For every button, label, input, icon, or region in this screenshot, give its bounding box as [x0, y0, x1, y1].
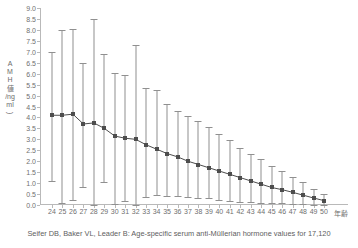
error-bar-cap-lower: [111, 204, 118, 205]
data-point-marker: [312, 196, 316, 200]
error-bar-cap-upper: [164, 104, 171, 105]
x-axis-tick-label: 46: [278, 208, 286, 215]
error-bar-cap-lower: [237, 202, 244, 203]
error-bar-cap-lower: [300, 204, 307, 205]
data-point-marker: [270, 185, 274, 189]
x-axis-tick-label: 30: [111, 208, 119, 215]
error-bar-cap-upper: [205, 127, 212, 128]
data-point-marker: [217, 169, 221, 173]
x-axis-tick-label: 36: [174, 208, 182, 215]
error-bar-cap-lower: [153, 195, 160, 196]
x-axis-tick-label: 37: [184, 208, 192, 215]
error-bar-cap-upper: [289, 177, 296, 178]
error-bar: [104, 54, 105, 182]
x-axis-tick-label: 35: [163, 208, 171, 215]
x-axis-tick-label: 50: [320, 208, 328, 215]
error-bar-cap-lower: [164, 196, 171, 197]
y-axis-title-paren: ): [6, 105, 14, 121]
data-point-marker: [176, 155, 180, 159]
data-point-marker: [280, 188, 284, 192]
data-point-marker: [102, 126, 106, 130]
error-bar: [156, 90, 157, 195]
error-bar: [93, 19, 94, 205]
error-bar-cap-lower: [195, 198, 202, 199]
error-bar-cap-upper: [321, 194, 328, 195]
y-axis-title-char: 値: [2, 85, 18, 93]
x-axis-tick-label: 25: [59, 208, 67, 215]
error-bar: [167, 104, 168, 196]
y-axis-tick-label: 6.0: [26, 70, 36, 77]
error-bar-cap-lower: [321, 205, 328, 206]
error-bar-cap-lower: [216, 200, 223, 201]
error-bar-cap-upper: [195, 121, 202, 122]
error-bar-cap-upper: [111, 73, 118, 74]
error-bar-cap-lower: [101, 182, 108, 183]
y-axis-tick-label: 8.0: [26, 26, 36, 33]
x-axis-tick-label: 27: [79, 208, 87, 215]
error-bar-cap-lower: [310, 205, 317, 206]
y-axis-tick-label: 4.5: [26, 103, 36, 110]
x-axis-tick-label: 29: [100, 208, 108, 215]
x-axis-tick-label: 33: [142, 208, 150, 215]
data-point-marker: [92, 121, 96, 125]
error-bar-cap-upper: [174, 111, 181, 112]
x-axis-tick-label: 48: [299, 208, 307, 215]
error-bar-cap-lower: [59, 203, 66, 204]
error-bar-cap-lower: [247, 202, 254, 203]
error-bar-cap-upper: [90, 19, 97, 20]
error-bar-cap-lower: [226, 201, 233, 202]
data-point-marker: [196, 163, 200, 167]
data-point-marker: [249, 179, 253, 183]
series-polyline: [40, 8, 348, 205]
error-bar-cap-upper: [122, 75, 129, 76]
error-bar-cap-upper: [258, 159, 265, 160]
y-axis-tick-mark: [37, 205, 40, 206]
error-bar-cap-lower: [268, 203, 275, 204]
y-axis-tick-label: 2.5: [26, 147, 36, 154]
data-point-marker: [165, 152, 169, 156]
error-bar: [271, 166, 272, 203]
y-axis-tick-label: 5.0: [26, 92, 36, 99]
error-bar-cap-lower: [90, 205, 97, 206]
x-axis-tick-label: 39: [205, 208, 213, 215]
amh-age-chart-figure: AMH値/ngml) 9.08.58.07.57.06.56.05.55.04.…: [0, 0, 358, 248]
y-axis-tick-label: 0.0: [26, 202, 36, 209]
y-axis-tick-label: 1.0: [26, 180, 36, 187]
data-point-marker: [71, 112, 75, 116]
figure-caption: Seifer DB, Baker VL, Leader B: Age-speci…: [0, 229, 358, 238]
data-point-marker: [238, 176, 242, 180]
y-axis-tick-label: 9.0: [26, 5, 36, 12]
x-axis-tick-label: 28: [90, 208, 98, 215]
error-bar-cap-lower: [132, 205, 139, 206]
y-axis-title: AMH値/ngml): [2, 60, 18, 117]
y-axis-tick-label: 0.5: [26, 191, 36, 198]
error-bar-cap-lower: [49, 181, 56, 182]
data-point-marker: [134, 137, 138, 141]
error-bar-cap-lower: [205, 198, 212, 199]
error-bar-cap-upper: [268, 166, 275, 167]
error-bar: [135, 45, 136, 205]
x-axis-tick-label: 38: [195, 208, 203, 215]
y-axis-title-char: /ng: [2, 93, 18, 101]
y-axis-tick-label: 1.5: [26, 169, 36, 176]
data-point-marker: [144, 143, 148, 147]
data-point-marker: [155, 147, 159, 151]
data-point-marker: [113, 134, 117, 138]
error-bar-cap-upper: [226, 140, 233, 141]
error-bar-cap-lower: [174, 196, 181, 197]
error-bar-cap-upper: [216, 134, 223, 135]
x-axis-tick-label: 32: [132, 208, 140, 215]
data-point-marker: [322, 199, 326, 203]
y-axis-tick-label: 4.0: [26, 114, 36, 121]
error-bar: [208, 127, 209, 198]
data-point-marker: [60, 113, 64, 117]
x-axis-tick-label: 26: [69, 208, 77, 215]
x-axis-tick-label: 49: [310, 208, 318, 215]
y-axis-title-char: H: [2, 76, 18, 84]
error-bar: [188, 116, 189, 197]
plot-area: 9.08.58.07.57.06.56.05.55.04.54.03.53.02…: [40, 8, 348, 205]
error-bar-cap-upper: [49, 52, 56, 53]
y-axis-tick-label: 3.0: [26, 136, 36, 143]
x-axis-tick-label: 41: [226, 208, 234, 215]
y-axis-tick-label: 7.5: [26, 37, 36, 44]
